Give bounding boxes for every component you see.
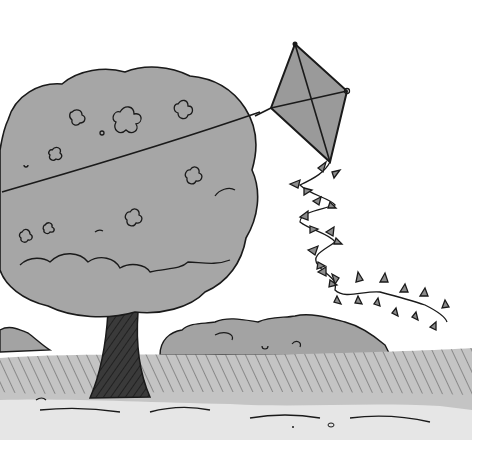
grass-field	[0, 348, 472, 440]
kite-in-tree-illustration	[0, 0, 477, 455]
tree-canopy	[0, 67, 258, 317]
